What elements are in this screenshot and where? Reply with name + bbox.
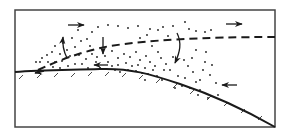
particle-dot (139, 37, 141, 39)
particle-dot (137, 25, 139, 27)
particle-dot (69, 55, 71, 57)
hatch-mark (71, 73, 75, 77)
particle-dot (131, 65, 133, 67)
particle-dot (210, 29, 212, 31)
particle-dot (195, 81, 197, 83)
particle-dot (184, 77, 186, 79)
particle-dot (163, 69, 165, 71)
particle-dot (199, 79, 201, 81)
particle-dot (129, 56, 131, 58)
particle-dot (52, 66, 54, 68)
particle-dot (204, 61, 206, 63)
particle-dot (85, 58, 87, 60)
particle-dot (39, 61, 41, 63)
particle-dot (145, 55, 147, 57)
particle-dot (157, 29, 159, 31)
particle-dot (205, 51, 207, 53)
particle-dot (162, 26, 164, 28)
particle-dot (195, 49, 197, 51)
particle-dot (91, 53, 93, 55)
arrow-icon-updraft-left (63, 37, 67, 58)
particle-dot (160, 57, 162, 59)
particle-dot (107, 61, 109, 63)
particle-dot (157, 51, 159, 53)
particle-dot (91, 31, 93, 33)
particle-dot (187, 65, 189, 67)
particle-dot (81, 63, 83, 65)
dashed-boundary-line (38, 37, 275, 70)
particle-dot (188, 28, 190, 30)
particle-dot (183, 59, 185, 61)
particle-dot (215, 82, 217, 84)
hatch-mark (156, 79, 160, 83)
particle-dot (117, 64, 119, 66)
hatch-mark (19, 75, 23, 79)
particle-dot (135, 51, 137, 53)
particle-dot (125, 62, 127, 64)
particle-dot (96, 56, 98, 58)
particle-dot (107, 24, 109, 26)
particle-dot (74, 46, 76, 48)
airflow-diagram (0, 0, 290, 134)
particle-dot (119, 71, 121, 73)
particle-dot (191, 57, 193, 59)
particle-dot (184, 21, 186, 23)
particle-dot (111, 65, 113, 67)
particle-dot (165, 63, 167, 65)
particle-dot (46, 54, 48, 56)
hatch-mark (37, 74, 41, 78)
particle-dot (77, 29, 79, 31)
particle-dot (144, 79, 146, 81)
particle-dot (71, 37, 73, 39)
arrow-icon-downdraft-curved (175, 33, 180, 63)
particle-dot (117, 25, 119, 27)
particle-dot (35, 61, 37, 63)
particle-dot (149, 28, 151, 30)
particle-dot (151, 45, 153, 47)
particle-dot (195, 30, 197, 32)
particle-dot (202, 69, 204, 71)
particle-dot (172, 25, 174, 27)
particle-dot (86, 38, 88, 40)
particle-dot (149, 61, 151, 63)
ground-surface-line (15, 69, 275, 127)
particle-dot (117, 57, 119, 59)
particle-dot (89, 45, 91, 47)
particle-dot (146, 34, 148, 36)
particle-dot (209, 74, 211, 76)
particle-dot (66, 49, 68, 51)
particle-dot (111, 50, 113, 52)
particle-dot (167, 35, 169, 37)
particle-dot (204, 31, 206, 33)
particle-dot (127, 27, 129, 29)
particle-dot (144, 67, 146, 69)
particle-dot (197, 94, 199, 96)
particle-dot (95, 61, 97, 63)
particle-dot (59, 53, 61, 55)
particle-dot (154, 65, 156, 67)
particle-dot (97, 26, 99, 28)
particle-dot (211, 64, 213, 66)
hatch-mark (122, 73, 126, 77)
particle-dot (104, 55, 106, 57)
particle-dot (80, 40, 82, 42)
hatch-mark (105, 72, 109, 76)
flow-arrows (35, 24, 242, 85)
hatch-mark (139, 75, 143, 79)
particle-dot (137, 64, 139, 66)
particle-dot (152, 69, 154, 71)
particle-dot (67, 65, 69, 67)
hatch-mark (88, 72, 92, 76)
particle-dot (174, 87, 176, 89)
particle-dot (41, 57, 43, 59)
particle-dot (54, 45, 56, 47)
particle-dot (59, 67, 61, 69)
particle-dot (169, 69, 171, 71)
particle-dot (74, 63, 76, 65)
hatch-mark (190, 90, 194, 94)
hatch-mark (54, 73, 58, 77)
particle-dot (192, 71, 194, 73)
particle-dot (139, 59, 141, 61)
particle-dot (47, 61, 49, 63)
particle-dot (217, 94, 219, 96)
